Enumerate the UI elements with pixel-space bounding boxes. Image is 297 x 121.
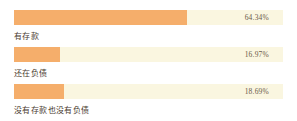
bar-fill [14, 10, 187, 25]
bar-track: 18.69% [14, 84, 283, 99]
bar-value-label: 18.69% [245, 84, 269, 99]
bar-fill [14, 84, 64, 99]
bar-category-label: 还在负债 [14, 67, 48, 78]
bar-track: 64.34% [14, 10, 283, 25]
bar-value-label: 64.34% [245, 10, 269, 25]
bar-value-label: 16.97% [245, 47, 269, 62]
bar-track: 16.97% [14, 47, 283, 62]
horizontal-bar-chart: 64.34% 有存款 16.97% 还在负债 18.69% 没有存款也没有负债 [0, 0, 297, 121]
bar-fill [14, 47, 60, 62]
bar-category-label: 有存款 [14, 30, 39, 41]
bar-category-label: 没有存款也没有负债 [14, 104, 90, 115]
